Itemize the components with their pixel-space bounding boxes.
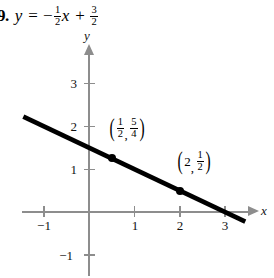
close-paren: ) xyxy=(206,151,211,171)
y-tick-mark xyxy=(84,169,95,171)
point1-y-numerator: 5 xyxy=(130,117,137,129)
x-tick-mark xyxy=(224,206,226,217)
x-tick-mark xyxy=(179,206,181,217)
minus-sign: − xyxy=(43,6,53,26)
y-tick-label: −1 xyxy=(47,248,73,264)
point2-y-fraction: 1 2 xyxy=(197,150,204,172)
equals-sign: = xyxy=(28,6,38,26)
y-tick-label: 2 xyxy=(51,119,77,135)
intercept-fraction: 3 2 xyxy=(90,5,97,27)
point-label-second: ( 2 , 1 2 ) xyxy=(176,150,213,172)
point2-y-numerator: 1 xyxy=(197,150,204,162)
point1-comma: , xyxy=(125,128,128,141)
point1-x-fraction: 1 2 xyxy=(117,117,124,139)
equation-line: 9. y = − 1 2 x + 3 2 xyxy=(2,2,98,30)
open-paren: ( xyxy=(110,118,115,138)
y-tick-label: 1 xyxy=(51,162,77,178)
x-tick-mark xyxy=(43,206,45,217)
plus-sign: + xyxy=(75,6,85,26)
point2-comma: , xyxy=(191,161,194,174)
point1-y-fraction: 5 4 xyxy=(130,117,137,139)
slope-fraction: 1 2 xyxy=(54,5,61,27)
x-tick-label: 2 xyxy=(167,218,193,234)
x-axis xyxy=(22,211,250,213)
y-axis-arrow-icon xyxy=(84,44,94,55)
graph-figure: 9. y = − 1 2 x + 3 2 x y −1 1 2 3 3 2 1 … xyxy=(0,0,274,278)
point1-y-denominator: 4 xyxy=(130,129,137,140)
y-tick-mark xyxy=(84,83,95,85)
x-tick-mark xyxy=(134,206,136,217)
point1-x-numerator: 1 xyxy=(117,117,124,129)
y-tick-mark xyxy=(84,254,95,256)
point1-x-denominator: 2 xyxy=(117,129,124,140)
point-label-first: ( 1 2 , 5 4 ) xyxy=(108,117,146,139)
equation-variable: x xyxy=(62,6,70,26)
equation-lhs: y xyxy=(15,6,23,26)
y-tick-mark xyxy=(84,126,95,128)
close-paren: ) xyxy=(140,118,145,138)
intercept-numerator: 3 xyxy=(90,5,97,17)
problem-number: 9. xyxy=(0,6,9,26)
x-axis-arrow-icon xyxy=(248,206,259,216)
x-tick-label: 1 xyxy=(122,218,148,234)
x-tick-label: −1 xyxy=(31,218,57,234)
slope-numerator: 1 xyxy=(54,5,61,17)
x-axis-label: x xyxy=(261,203,267,219)
y-axis xyxy=(88,52,90,276)
intercept-denominator: 2 xyxy=(90,17,97,28)
slope-denominator: 2 xyxy=(54,17,61,28)
data-point-marker xyxy=(108,154,116,162)
y-tick-label: 3 xyxy=(51,76,77,92)
data-point-marker xyxy=(176,187,184,195)
y-axis-label: y xyxy=(84,28,90,44)
open-paren: ( xyxy=(178,151,183,171)
point2-y-denominator: 2 xyxy=(197,162,204,173)
x-tick-label: 3 xyxy=(212,218,238,234)
